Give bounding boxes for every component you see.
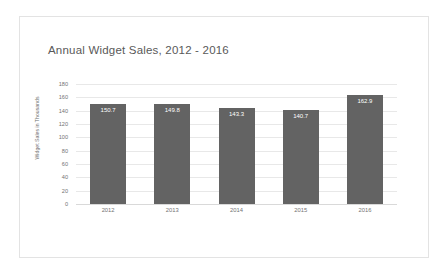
chart-title: Annual Widget Sales, 2012 - 2016 — [48, 44, 229, 56]
bar-slot: 149.8 — [140, 84, 204, 204]
bar[interactable]: 143.3 — [219, 108, 255, 204]
y-axis-tick-label: 180 — [59, 81, 68, 87]
y-axis-tick-label: 160 — [59, 94, 68, 100]
bar-slot: 143.3 — [204, 84, 268, 204]
plot-area: 150.7149.8143.3140.7162.9 — [76, 84, 397, 204]
bar-value-label: 162.9 — [347, 98, 383, 104]
y-axis-tick-label: 120 — [59, 121, 68, 127]
bar[interactable]: 140.7 — [283, 110, 319, 204]
y-axis-tick-label: 40 — [62, 174, 68, 180]
x-axis-tick-labels: 20122013201420152016 — [76, 207, 397, 213]
bar[interactable]: 149.8 — [154, 104, 190, 204]
screenshot-root: Annual Widget Sales, 2012 - 2016 Widget … — [0, 0, 448, 276]
bar-series: 150.7149.8143.3140.7162.9 — [76, 84, 397, 204]
bar-slot: 162.9 — [333, 84, 397, 204]
bar-value-label: 143.3 — [219, 111, 255, 117]
chart-card: Annual Widget Sales, 2012 - 2016 Widget … — [19, 16, 429, 258]
x-axis-tick-label: 2014 — [204, 207, 268, 213]
y-axis-tick-label: 20 — [62, 188, 68, 194]
y-axis-tick-label: 60 — [62, 161, 68, 167]
x-axis-tick-label: 2015 — [269, 207, 333, 213]
bar-slot: 140.7 — [269, 84, 333, 204]
bar[interactable]: 162.9 — [347, 95, 383, 204]
bar-value-label: 140.7 — [283, 113, 319, 119]
y-axis-tick-label: 140 — [59, 108, 68, 114]
y-axis-tick-labels: 180160140120100806040200 — [20, 84, 72, 204]
bar[interactable]: 150.7 — [90, 104, 126, 204]
y-axis-tick-label: 100 — [59, 134, 68, 140]
bar-slot: 150.7 — [76, 84, 140, 204]
gridline — [76, 204, 397, 205]
bar-value-label: 149.8 — [154, 107, 190, 113]
x-axis-tick-label: 2013 — [140, 207, 204, 213]
y-axis-tick-label: 80 — [62, 148, 68, 154]
x-axis-tick-label: 2012 — [76, 207, 140, 213]
y-axis-tick-label: 0 — [65, 201, 68, 207]
x-axis-tick-label: 2016 — [333, 207, 397, 213]
bar-value-label: 150.7 — [90, 107, 126, 113]
